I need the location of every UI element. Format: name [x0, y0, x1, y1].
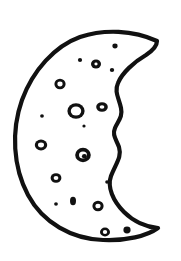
crater-1: [112, 44, 117, 49]
crater-17-dot: [123, 227, 130, 234]
crater-8-dot: [40, 114, 44, 118]
crater-5-basin: [57, 82, 62, 87]
crater-4-dot: [110, 68, 114, 72]
crater-9: [35, 140, 47, 151]
crater-16-basin: [103, 230, 107, 234]
crater-6-basin: [71, 106, 81, 115]
crater-15: [92, 201, 103, 211]
crater-14-dot: [70, 197, 76, 205]
drawing-canvas: [0, 0, 181, 261]
crater-13-dot: [54, 202, 58, 206]
crescent-moon-illustration: [0, 0, 181, 261]
crater-3-basin: [94, 63, 97, 66]
crater-8: [40, 114, 44, 118]
crater-10: [75, 148, 91, 162]
crater-13: [54, 202, 58, 206]
crater-1-dot: [112, 44, 117, 49]
crater-3: [91, 59, 101, 68]
crater-17: [123, 227, 130, 234]
crater-4: [110, 68, 114, 72]
crater-2: [78, 58, 82, 62]
crater-12-basin: [54, 176, 59, 180]
crater-16: [100, 228, 110, 237]
crater-5: [54, 79, 65, 89]
crater-9-basin: [38, 143, 44, 148]
crater-18: [82, 125, 85, 128]
crater-11: [105, 180, 109, 183]
crater-7-basin: [100, 105, 105, 109]
crater-14: [70, 197, 76, 205]
crater-18-dot: [82, 125, 85, 128]
crater-6: [67, 103, 84, 119]
crater-10-core: [82, 154, 87, 158]
crater-11-dot: [105, 180, 109, 183]
crater-2-dot: [78, 58, 82, 62]
crater-7: [96, 102, 108, 112]
crater-15-basin: [95, 204, 100, 209]
crater-12: [51, 173, 62, 183]
